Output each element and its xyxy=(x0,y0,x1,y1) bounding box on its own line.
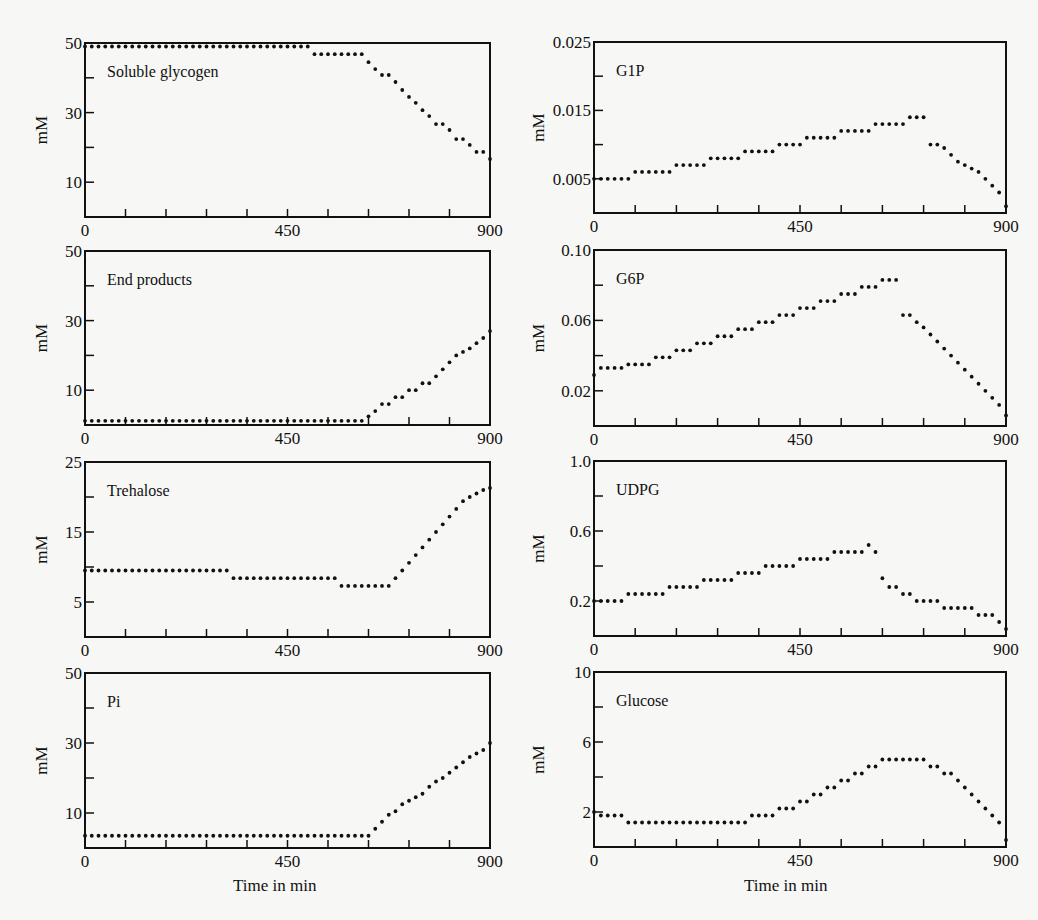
data-point xyxy=(488,157,492,161)
data-point xyxy=(205,834,209,838)
data-point xyxy=(922,758,926,762)
data-point xyxy=(346,52,350,56)
y-axis-label: mM xyxy=(529,113,548,141)
data-point xyxy=(400,802,404,806)
data-point xyxy=(427,538,431,542)
data-point xyxy=(157,569,161,573)
data-point xyxy=(681,163,685,167)
data-point xyxy=(272,576,276,580)
plot-frame xyxy=(85,673,490,848)
data-point xyxy=(723,821,727,825)
data-point xyxy=(360,419,364,423)
data-point xyxy=(468,143,472,147)
data-point xyxy=(83,45,87,49)
data-point xyxy=(826,299,830,303)
data-point xyxy=(144,569,148,573)
x-tick-label: 450 xyxy=(275,221,301,240)
data-point xyxy=(151,419,155,423)
data-point xyxy=(729,578,733,582)
data-point xyxy=(299,576,303,580)
data-point xyxy=(791,313,795,317)
data-point xyxy=(205,419,209,423)
data-point xyxy=(279,45,283,49)
data-point xyxy=(373,409,377,413)
data-point xyxy=(984,177,988,181)
data-point xyxy=(387,402,391,406)
data-point xyxy=(647,363,651,367)
data-point xyxy=(853,292,857,296)
data-point xyxy=(894,278,898,282)
data-point xyxy=(475,492,479,496)
data-point xyxy=(764,814,768,818)
data-point xyxy=(668,821,672,825)
data-point xyxy=(346,584,350,588)
data-point xyxy=(414,795,418,799)
data-point xyxy=(252,45,256,49)
data-point xyxy=(265,45,269,49)
data-point xyxy=(654,170,658,174)
data-point xyxy=(488,329,492,333)
data-point xyxy=(984,613,988,617)
data-point xyxy=(661,170,665,174)
data-point xyxy=(394,395,398,399)
x-tick-label: 900 xyxy=(993,430,1019,449)
data-point xyxy=(819,793,823,797)
data-point xyxy=(778,143,782,147)
data-point xyxy=(887,758,891,762)
data-point xyxy=(232,419,236,423)
data-point xyxy=(935,765,939,769)
data-point xyxy=(245,419,249,423)
panel-end-products: 0450900103050mMEnd products xyxy=(32,242,503,448)
data-point xyxy=(427,114,431,118)
data-point xyxy=(198,569,202,573)
data-point xyxy=(279,834,283,838)
data-point xyxy=(709,156,713,160)
data-point xyxy=(764,564,768,568)
data-point xyxy=(839,292,843,296)
data-point xyxy=(915,758,919,762)
data-point xyxy=(97,834,101,838)
data-point xyxy=(626,821,630,825)
data-point xyxy=(894,758,898,762)
data-point xyxy=(771,814,775,818)
data-point xyxy=(688,585,692,589)
data-point xyxy=(620,366,624,370)
data-point xyxy=(970,606,974,610)
data-point xyxy=(103,419,107,423)
data-point xyxy=(908,758,912,762)
data-point xyxy=(259,834,263,838)
data-point xyxy=(346,834,350,838)
data-point xyxy=(333,834,337,838)
data-point xyxy=(805,557,809,561)
data-point xyxy=(171,45,175,49)
data-point xyxy=(225,45,229,49)
data-point xyxy=(743,821,747,825)
data-point xyxy=(198,834,202,838)
data-point xyxy=(970,167,974,171)
data-point xyxy=(750,150,754,154)
data-point xyxy=(313,834,317,838)
data-point xyxy=(211,834,215,838)
data-point xyxy=(805,306,809,310)
data-point xyxy=(191,45,195,49)
data-point xyxy=(407,561,411,565)
y-tick-label: 1.0 xyxy=(570,452,591,471)
data-point xyxy=(340,419,344,423)
data-point xyxy=(881,576,885,580)
data-point xyxy=(949,772,953,776)
data-point xyxy=(819,136,823,140)
data-point xyxy=(184,45,188,49)
data-point xyxy=(929,599,933,603)
x-tick-label: 900 xyxy=(477,641,503,660)
data-point xyxy=(360,584,364,588)
data-point xyxy=(626,177,630,181)
data-point xyxy=(867,285,871,289)
data-point xyxy=(881,278,885,282)
data-point xyxy=(695,341,699,345)
data-point xyxy=(915,115,919,119)
y-axis-label: mM xyxy=(529,534,548,562)
data-point xyxy=(238,419,242,423)
data-point xyxy=(292,576,296,580)
data-point xyxy=(812,557,816,561)
data-point xyxy=(695,163,699,167)
